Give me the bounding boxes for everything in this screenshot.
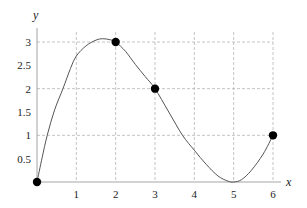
data-point: [33, 178, 41, 186]
y-tick-label: 3: [26, 36, 32, 48]
y-tick-label: 2.5: [17, 59, 31, 71]
gridlines: [37, 32, 273, 182]
curve-line: [37, 39, 273, 182]
data-point: [269, 131, 277, 139]
data-point: [111, 38, 119, 46]
x-tick-labels: 123456: [74, 188, 277, 200]
x-tick-label: 6: [270, 188, 276, 200]
data-point: [151, 84, 159, 92]
y-tick-label: 2: [26, 83, 32, 95]
y-tick-label: 1.5: [17, 106, 31, 118]
x-tick-label: 4: [192, 188, 198, 200]
x-tick-label: 5: [231, 188, 237, 200]
y-tick-labels: 0.511.522.53: [17, 36, 31, 165]
y-tick-label: 1: [26, 129, 32, 141]
y-tick-label: 0.5: [17, 153, 31, 165]
x-tick-label: 2: [113, 188, 119, 200]
x-tick-label: 3: [152, 188, 158, 200]
y-axis-label: y: [32, 8, 39, 22]
x-tick-label: 1: [74, 188, 80, 200]
chart: 123456 0.511.522.53 y x: [0, 0, 307, 208]
x-axis-label: x: [285, 175, 292, 189]
